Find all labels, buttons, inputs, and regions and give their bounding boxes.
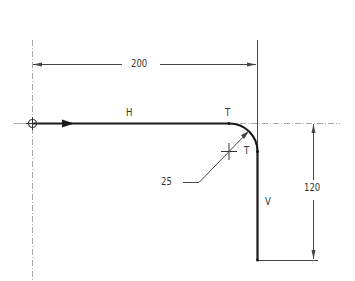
direction-arrow-icon	[62, 120, 74, 128]
radius-leader	[183, 131, 249, 183]
radius-25-label: 25	[161, 177, 172, 187]
tangent-point-2	[256, 150, 259, 153]
end-point	[256, 259, 259, 262]
tangent-point-1	[228, 122, 231, 125]
toolpath	[32, 123, 258, 260]
segment-v-label: V	[265, 197, 271, 207]
dimension-200-label: 200	[131, 59, 147, 69]
origin-icon	[26, 117, 39, 130]
arrowhead-right	[247, 63, 256, 67]
dimension-120-label: 120	[304, 183, 320, 193]
segment-h-label: H	[126, 108, 132, 118]
tangent-label-1: T	[225, 108, 230, 118]
arrowhead-bottom	[312, 250, 316, 259]
tangent-label-2: T	[244, 146, 249, 156]
arrowhead-top	[312, 124, 316, 133]
technical-drawing	[0, 0, 355, 281]
arrowhead-left	[33, 63, 42, 67]
